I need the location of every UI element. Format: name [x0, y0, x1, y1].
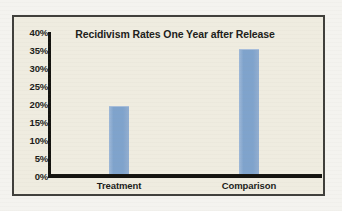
x-axis-line — [48, 174, 322, 178]
page-background: Recidivism Rates One Year after Release … — [0, 0, 342, 211]
y-axis-tick-label: 30% — [14, 64, 48, 74]
bar-treatment — [109, 106, 129, 175]
y-axis-tick-label: 25% — [14, 82, 48, 92]
y-axis-tick-label: 0% — [14, 172, 48, 182]
y-axis-tick-label: 10% — [14, 136, 48, 146]
x-axis-label-comparison: Comparison — [202, 180, 296, 191]
y-axis-tick-label: 35% — [14, 46, 48, 56]
chart-title: Recidivism Rates One Year after Release — [50, 28, 300, 40]
y-axis-tick-label: 20% — [14, 100, 48, 110]
y-axis-tick-label: 40% — [14, 28, 48, 38]
bar-comparison — [239, 49, 259, 174]
x-axis-label-treatment: Treatment — [74, 180, 164, 191]
chart-plot-area: Recidivism Rates One Year after Release … — [14, 17, 323, 194]
chart-frame: Recidivism Rates One Year after Release … — [12, 15, 325, 196]
y-axis-line — [48, 32, 51, 177]
y-axis-tick-label: 15% — [14, 118, 48, 128]
y-axis-tick-label: 5% — [14, 154, 48, 164]
